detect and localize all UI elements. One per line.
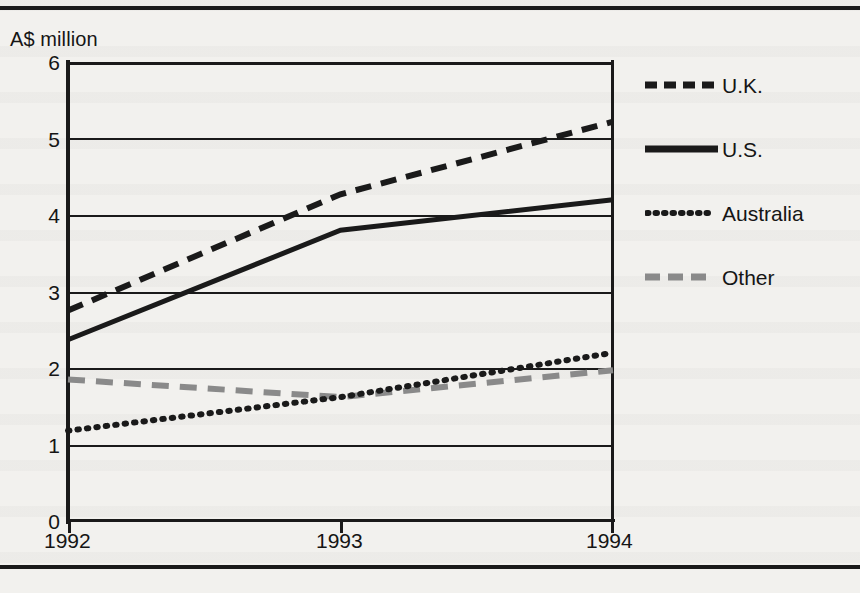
legend-item-australia[interactable]: Australia	[645, 200, 804, 226]
legend-item-uk[interactable]: U.K.	[645, 72, 763, 98]
dotted-line-swatch-icon	[645, 204, 718, 222]
solid-line-swatch-icon	[645, 140, 718, 158]
series-line-other	[68, 370, 613, 397]
legend-label-uk: U.K.	[722, 75, 763, 96]
series-line-australia	[68, 353, 613, 431]
series-line-us	[68, 200, 613, 340]
gray-dashed-line-swatch-icon	[645, 268, 718, 286]
legend-label-other: Other	[722, 267, 775, 288]
line-chart-figure: A$ million 6 5 4 3 2 1 0 1992 1993 1994	[0, 0, 860, 593]
chart-legend: U.K. U.S. Australia Other	[645, 60, 850, 275]
legend-item-us[interactable]: U.S.	[645, 136, 763, 162]
dashed-line-swatch-icon	[645, 76, 718, 94]
series-line-uk	[68, 122, 613, 311]
legend-label-australia: Australia	[722, 203, 804, 224]
legend-label-us: U.S.	[722, 139, 763, 160]
legend-item-other[interactable]: Other	[645, 264, 775, 290]
